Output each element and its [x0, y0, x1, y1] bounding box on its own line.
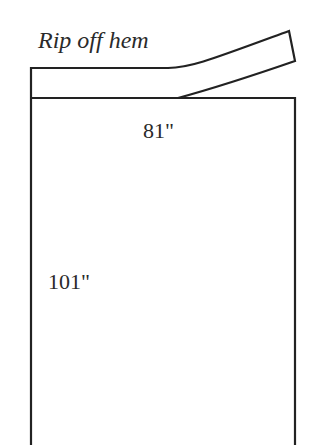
width-dimension-label: 81" [143, 118, 174, 143]
length-dimension-label: 101" [48, 269, 90, 294]
title-label: Rip off hem [37, 27, 149, 53]
hem-diagram: Rip off hem 81" 101" [0, 0, 326, 445]
